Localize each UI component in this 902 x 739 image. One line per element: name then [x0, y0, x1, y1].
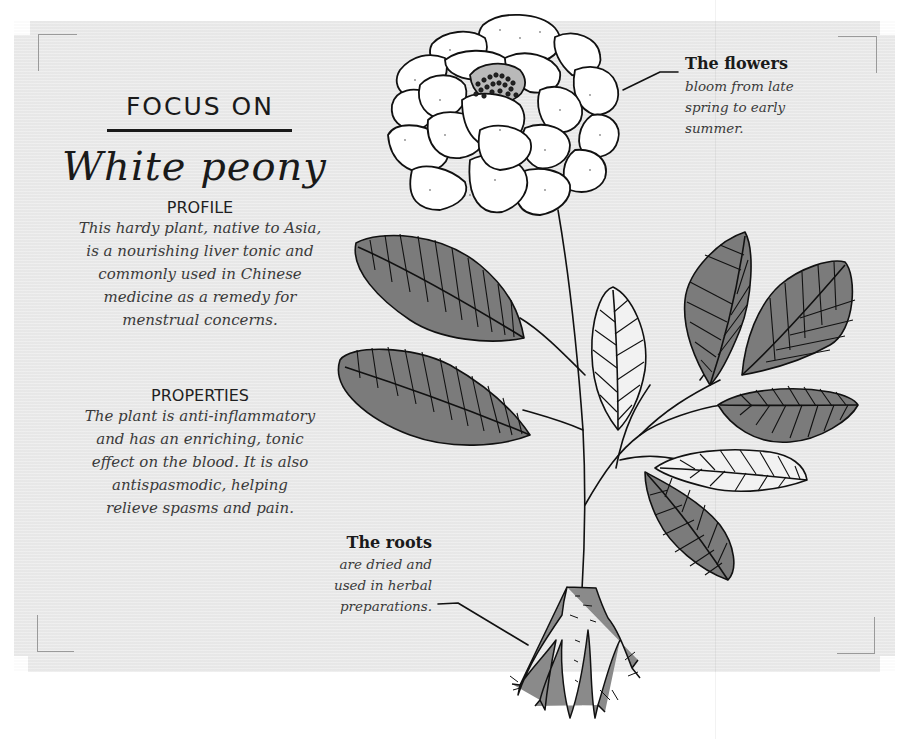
leaf-right-middle [718, 386, 858, 442]
leaf-right-lower-outline [655, 450, 807, 491]
peony-flower [388, 15, 619, 215]
leaf-upper-left [355, 234, 524, 341]
roots-leader-line [438, 603, 528, 645]
leaf-right-upper [742, 261, 855, 375]
leaf-lower-left [338, 347, 530, 445]
leaf-right-top [685, 232, 751, 385]
root [510, 587, 640, 718]
flowers-leader-line [623, 72, 678, 90]
leaf-center-outline [592, 287, 646, 430]
main-stem [558, 210, 585, 590]
branch-right-mid [640, 405, 722, 435]
peony-illustration [0, 0, 902, 739]
branch-left-upper [523, 410, 583, 430]
